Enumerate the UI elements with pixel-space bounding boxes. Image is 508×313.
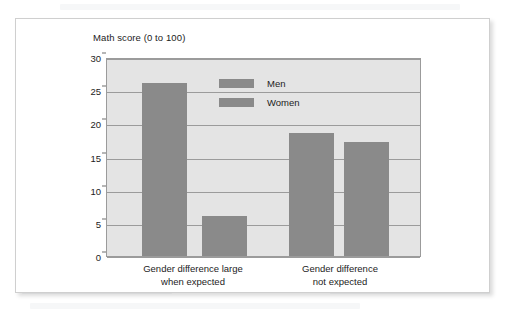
y-tick-label-30: 30 <box>90 53 101 64</box>
bar-women-group0 <box>202 216 247 256</box>
gridline-30 <box>107 59 420 60</box>
ghost-text-line <box>30 303 360 309</box>
gridline-0 <box>107 257 420 258</box>
category-label-1: Gender difference not expected <box>250 263 430 288</box>
y-tick-mark-30 <box>102 53 106 54</box>
y-tick-label-15: 15 <box>90 152 101 163</box>
y-tick-label-20: 20 <box>90 119 101 130</box>
legend-swatch-women <box>219 98 254 107</box>
legend-item-men: Men <box>219 74 300 93</box>
y-tick-label-25: 25 <box>90 86 101 97</box>
legend-label-women: Women <box>267 97 300 108</box>
legend-label-men: Men <box>267 78 285 89</box>
y-tick-label-5: 5 <box>96 218 101 229</box>
bar-men-group1 <box>289 133 334 256</box>
y-tick-label-0: 0 <box>96 252 101 263</box>
y-axis-title: Math score (0 to 100) <box>93 32 185 43</box>
bar-women-group1 <box>344 142 389 256</box>
y-axis-tick-labels: 051015202530 <box>76 58 101 257</box>
ghost-text-line <box>60 4 460 10</box>
y-tick-label-10: 10 <box>90 185 101 196</box>
legend-item-women: Women <box>219 93 300 112</box>
legend-swatch-men <box>219 79 254 88</box>
chart-legend: Men Women <box>219 74 300 112</box>
bar-men-group0 <box>142 83 187 256</box>
figure-card: Math score (0 to 100) 051015202530 Men W… <box>15 18 490 293</box>
